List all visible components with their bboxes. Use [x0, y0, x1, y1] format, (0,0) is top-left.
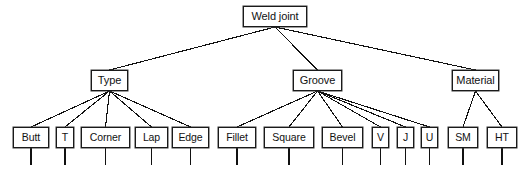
edge-groove-to-fillet: [237, 91, 318, 127]
node-square[interactable]: Square: [264, 127, 314, 148]
edge-groove-to-bevel: [318, 91, 343, 127]
node-label: Butt: [21, 132, 41, 143]
weld-joint-tree-diagram: Weld jointTypeButtTCornerLapEdgeGrooveFi…: [0, 0, 523, 178]
node-label: U: [425, 132, 434, 143]
node-label: Bevel: [329, 132, 357, 143]
node-bevel[interactable]: Bevel: [322, 127, 363, 148]
edge-root-to-groove: [275, 27, 318, 70]
node-material[interactable]: Material: [452, 70, 499, 91]
node-weld-joint[interactable]: Weld joint: [243, 6, 307, 27]
edge-type-to-lap: [110, 91, 152, 127]
node-groove[interactable]: Groove: [293, 70, 342, 91]
node-label: T: [61, 132, 69, 143]
node-j[interactable]: J: [397, 127, 414, 148]
node-type[interactable]: Type: [91, 70, 128, 91]
edge-material-to-ht: [476, 91, 503, 127]
edge-material-to-sm: [463, 91, 476, 127]
node-label: Material: [455, 75, 495, 86]
node-label: Type: [97, 75, 122, 86]
node-lap[interactable]: Lap: [135, 127, 168, 148]
node-edge[interactable]: Edge: [172, 127, 209, 148]
node-label: Groove: [299, 75, 336, 86]
node-t[interactable]: T: [56, 127, 74, 148]
edge-type-to-edge: [110, 91, 191, 127]
edge-type-to-butt: [31, 91, 110, 127]
node-u[interactable]: U: [421, 127, 438, 148]
node-label: SM: [454, 132, 472, 143]
node-v[interactable]: V: [372, 127, 389, 148]
node-butt[interactable]: Butt: [13, 127, 49, 148]
node-corner[interactable]: Corner: [81, 127, 130, 148]
node-label: Corner: [89, 132, 123, 143]
edge-groove-to-j: [318, 91, 406, 127]
node-label: Edge: [177, 132, 203, 143]
node-label: V: [376, 132, 385, 143]
node-ht[interactable]: HT: [487, 127, 517, 148]
node-label: Fillet: [225, 132, 249, 143]
node-label: Lap: [142, 132, 161, 143]
edge-type-to-corner: [106, 91, 110, 127]
node-label: Square: [271, 132, 306, 143]
node-label: Weld joint: [250, 11, 299, 22]
edge-type-to-t: [65, 91, 110, 127]
node-sm[interactable]: SM: [448, 127, 478, 148]
node-label: HT: [494, 132, 510, 143]
edge-root-to-material: [275, 27, 476, 70]
edge-groove-to-square: [289, 91, 318, 127]
edge-groove-to-v: [318, 91, 381, 127]
node-label: J: [402, 132, 409, 143]
edge-groove-to-u: [318, 91, 430, 127]
edge-root-to-type: [110, 27, 276, 70]
node-fillet[interactable]: Fillet: [218, 127, 256, 148]
